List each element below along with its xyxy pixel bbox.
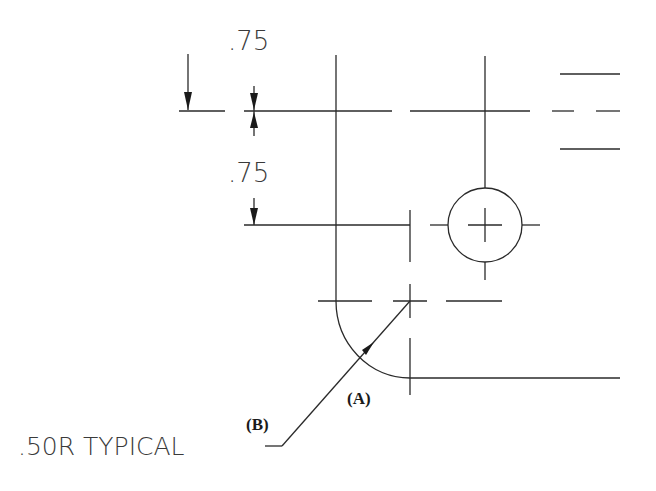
leader-line xyxy=(265,301,410,446)
fillet-centerlines xyxy=(318,210,502,395)
dimension-label-top: .75 xyxy=(228,26,269,56)
radius-note: .50R TYPICAL xyxy=(18,432,185,461)
fillet-arc xyxy=(336,301,410,378)
callout-b: (B) xyxy=(246,415,269,434)
dimension-arrow-left xyxy=(179,54,225,111)
hole-circle xyxy=(430,188,540,280)
drawing-canvas: .75 .75 .50R TYPICAL (B) (A) xyxy=(0,0,656,491)
callout-a: (A) xyxy=(347,389,371,408)
dimension-label-second: .75 xyxy=(228,158,269,188)
technical-drawing: .75 .75 .50R TYPICAL (B) (A) xyxy=(0,0,656,491)
dimension-arrow-center xyxy=(250,86,258,225)
